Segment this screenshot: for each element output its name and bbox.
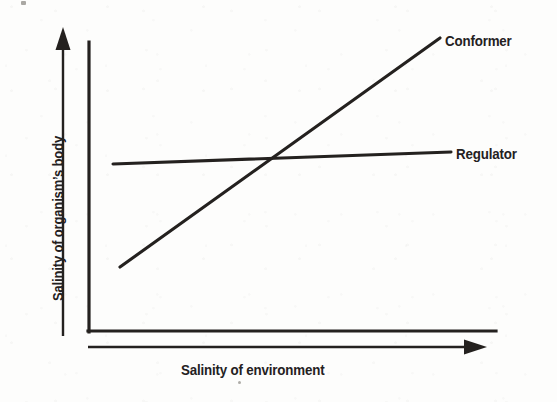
arrow-right-icon: [88, 340, 487, 355]
series-label-regulator: Regulator: [456, 146, 517, 162]
series-line-regulator: [113, 152, 451, 164]
salinity-conformer-regulator-figure: Salinity of organism’s body Salinity of …: [0, 0, 557, 402]
y-axis-title: Salinity of organism’s body: [50, 136, 66, 301]
series-line-conformer: [120, 38, 440, 267]
x-axis-title: Salinity of environment: [181, 362, 324, 378]
series-label-conformer: Conformer: [445, 33, 512, 49]
plot-canvas: [0, 0, 557, 402]
